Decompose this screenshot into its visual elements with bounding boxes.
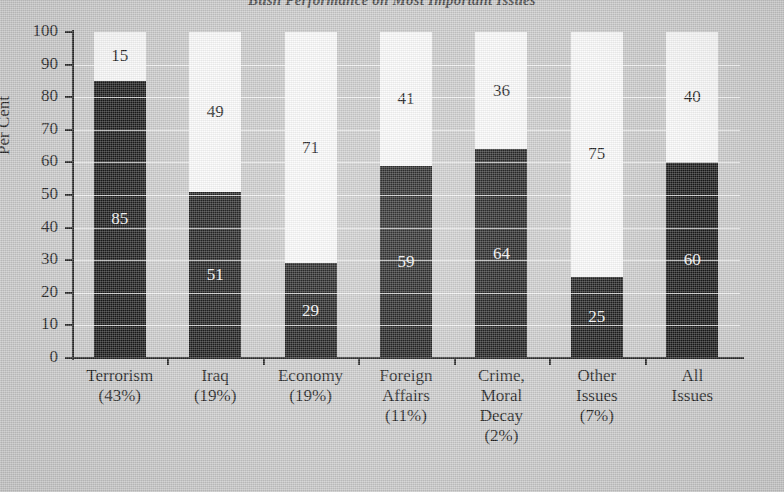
gridline — [72, 293, 740, 294]
y-tick-mark — [65, 31, 72, 33]
x-axis-label-line: Decay — [454, 406, 549, 426]
x-tick-mark — [167, 357, 169, 365]
gridline — [72, 162, 740, 163]
gridline — [72, 260, 740, 261]
y-axis-title: Per Cent — [0, 96, 14, 155]
y-tick-label: 10 — [41, 314, 58, 334]
x-axis-label-line: (43%) — [72, 386, 167, 406]
x-axis-label-line: Crime, — [454, 366, 549, 386]
x-axis-label-line: All — [645, 366, 740, 386]
x-axis-label-line: (19%) — [167, 386, 262, 406]
y-tick-mark — [65, 161, 72, 163]
gridline — [72, 228, 740, 229]
y-tick-label: 60 — [41, 151, 58, 171]
y-tick-label: 90 — [41, 54, 58, 74]
y-tick-label: 100 — [33, 21, 59, 41]
gridline — [72, 97, 740, 98]
x-axis-label-line: (11%) — [358, 406, 453, 426]
x-axis-label: AllIssues — [645, 366, 740, 406]
x-axis-label: OtherIssues(7%) — [549, 366, 644, 426]
x-axis-label-line: (7%) — [549, 406, 644, 426]
x-tick-mark — [358, 357, 360, 365]
gridline — [72, 325, 740, 326]
chart-title: Bush Performance on Most Important Issue… — [0, 0, 784, 9]
y-tick-label: 20 — [41, 282, 58, 302]
x-axis-label-line: Affairs — [358, 386, 453, 406]
y-tick-mark — [65, 357, 72, 359]
gridline — [72, 65, 740, 66]
y-tick-mark — [65, 64, 72, 66]
x-axis-label-line: Issues — [549, 386, 644, 406]
x-axis-label: Terrorism(43%) — [72, 366, 167, 406]
gridline — [72, 195, 740, 196]
x-tick-mark — [454, 357, 456, 365]
x-axis-label: Economy(19%) — [263, 366, 358, 406]
x-axis-label-line: Moral — [454, 386, 549, 406]
x-axis-label: Crime,MoralDecay(2%) — [454, 366, 549, 446]
y-tick-mark — [65, 292, 72, 294]
x-axis-label-line: Terrorism — [72, 366, 167, 386]
x-axis-label: Iraq(19%) — [167, 366, 262, 406]
y-tick-label: 30 — [41, 249, 58, 269]
x-tick-mark — [645, 357, 647, 365]
x-axis-label-line: Foreign — [358, 366, 453, 386]
gridline — [72, 130, 740, 131]
y-tick-label: 50 — [41, 184, 58, 204]
gridlines — [72, 32, 740, 358]
x-axis-label-line: Issues — [645, 386, 740, 406]
y-tick-mark — [65, 227, 72, 229]
y-tick-label: 80 — [41, 86, 58, 106]
x-tick-mark — [549, 357, 551, 365]
y-tick-label: 0 — [50, 347, 59, 367]
x-tick-mark — [263, 357, 265, 365]
y-tick-mark — [65, 129, 72, 131]
x-axis-label-line: Economy — [263, 366, 358, 386]
y-tick-mark — [65, 324, 72, 326]
x-axis-label: ForeignAffairs(11%) — [358, 366, 453, 426]
plot-area: 1585495171294159366475254060 — [72, 32, 740, 358]
x-axis-label-line: Other — [549, 366, 644, 386]
y-axis-line — [72, 30, 74, 360]
y-tick-mark — [65, 259, 72, 261]
y-tick-label: 70 — [41, 119, 58, 139]
x-axis-line — [72, 357, 744, 359]
y-tick-mark — [65, 96, 72, 98]
x-axis-label-line: (2%) — [454, 426, 549, 446]
x-axis-label-line: Iraq — [167, 366, 262, 386]
y-tick-mark — [65, 194, 72, 196]
y-tick-label: 40 — [41, 217, 58, 237]
x-axis-label-line: (19%) — [263, 386, 358, 406]
